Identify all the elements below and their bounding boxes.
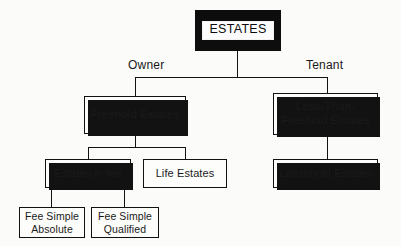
node-less-than-freehold-estates-line2: Freehold Estates	[281, 114, 370, 126]
node-leasehold-estates: Leasehold Estates	[273, 159, 378, 188]
node-freehold-estates: Freehold Estates	[84, 96, 186, 134]
connector-tenant-to-less-than-freehold	[327, 77, 328, 94]
branch-label-owner: Owner	[128, 58, 164, 72]
root-node-label: ESTATES	[202, 21, 273, 40]
node-less-than-freehold-estates-label: Less-Than- Freehold Estates	[274, 100, 377, 127]
connector-freehold-bar	[88, 147, 186, 148]
connector-to-fee-simple-absolute	[51, 188, 52, 208]
connector-freehold-down	[135, 134, 136, 148]
estates-diagram-canvas: ESTATES Owner Tenant Freehold Estates Le…	[0, 0, 401, 246]
node-fee-simple-qualified-label: Fee Simple Qualified	[92, 210, 158, 235]
node-fee-simple-absolute-line1: Fee Simple	[25, 210, 79, 222]
node-freehold-estates-label: Freehold Estates	[85, 108, 185, 122]
node-less-than-freehold-estates-line1: Less-Than-	[296, 100, 355, 112]
connector-owner-to-freehold	[135, 77, 136, 97]
node-life-estates: Life Estates	[143, 159, 227, 188]
connector-to-fee-simple-qualified	[124, 188, 125, 208]
node-fee-simple-absolute-label: Fee Simple Absolute	[20, 210, 84, 235]
root-node-estates: ESTATES	[195, 10, 281, 51]
node-fee-simple-qualified-line1: Fee Simple	[98, 210, 152, 222]
node-estates-in-fee-label: Estates in fee	[46, 167, 130, 180]
node-fee-simple-absolute: Fee Simple Absolute	[19, 207, 85, 238]
node-less-than-freehold-estates: Less-Than- Freehold Estates	[273, 93, 378, 135]
connector-split-bar	[135, 77, 327, 78]
node-leasehold-estates-label: Leasehold Estates	[274, 167, 377, 180]
connector-root-to-split	[237, 51, 238, 78]
node-fee-simple-qualified: Fee Simple Qualified	[91, 207, 159, 238]
node-life-estates-label: Life Estates	[144, 167, 226, 180]
node-estates-in-fee: Estates in fee	[45, 159, 131, 188]
branch-label-tenant: Tenant	[306, 58, 343, 72]
node-fee-simple-absolute-line2: Absolute	[31, 223, 73, 235]
node-fee-simple-qualified-line2: Qualified	[104, 223, 146, 235]
connector-less-than-freehold-to-leasehold	[327, 135, 328, 160]
